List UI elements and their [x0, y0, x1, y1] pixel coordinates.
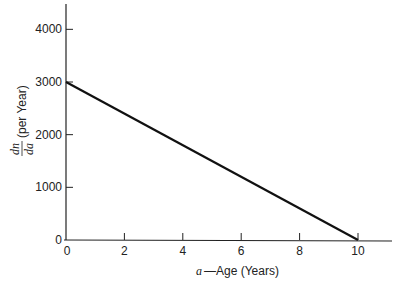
- series-line: [66, 82, 358, 240]
- y-axis-title-numerator: dn: [8, 143, 22, 155]
- x-tick-label: 0: [64, 244, 71, 258]
- x-axis-title-var: a: [196, 264, 202, 278]
- x-tick-label: 4: [179, 244, 186, 258]
- y-tick-label: 3000: [35, 75, 62, 89]
- y-tick-label: 1000: [35, 180, 62, 194]
- y-tick-label: 4000: [35, 22, 62, 36]
- x-tick-label: 8: [296, 244, 303, 258]
- y-tick-label: 0: [55, 233, 62, 247]
- series: [66, 82, 358, 240]
- y-axis-title: dn da (per Year): [8, 85, 36, 156]
- y-axis-title-denominator: da: [22, 143, 36, 155]
- x-axis-line: [64, 240, 392, 241]
- axes: [64, 4, 392, 241]
- x-axis-title: —Age (Years): [204, 264, 279, 278]
- y-tick-label: 2000: [35, 128, 62, 142]
- x-tick-label: 6: [238, 244, 245, 258]
- x-tick-label: 10: [351, 244, 365, 258]
- x-tick-label: 2: [121, 244, 128, 258]
- ticks: 010002000300040000246810: [35, 22, 365, 258]
- chart: 010002000300040000246810 a —Age (Years) …: [0, 0, 400, 286]
- y-axis-title-units: (per Year): [15, 85, 29, 138]
